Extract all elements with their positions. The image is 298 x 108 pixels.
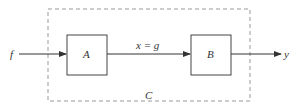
block-diagram: f A B x = g C y [0, 0, 298, 108]
block-a-label: A [82, 48, 90, 60]
container-label: C [145, 89, 153, 101]
block-b-label: B [207, 48, 214, 60]
input-label: f [10, 48, 15, 60]
output-label: y [283, 48, 289, 60]
connection-label: x = g [135, 39, 160, 51]
